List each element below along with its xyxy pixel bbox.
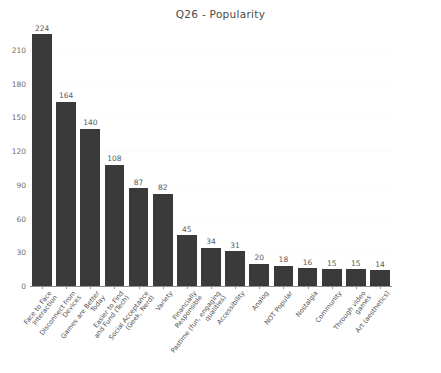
bar-group[interactable]: 15 bbox=[322, 22, 342, 286]
bar-value-label: 224 bbox=[35, 25, 49, 33]
y-axis-tick-label: 30 bbox=[16, 248, 26, 257]
bar[interactable] bbox=[56, 102, 76, 287]
bar[interactable] bbox=[105, 165, 125, 287]
bar-group[interactable]: 34 bbox=[201, 22, 221, 286]
x-axis-tick bbox=[235, 286, 236, 289]
bar[interactable] bbox=[298, 268, 318, 286]
bar[interactable] bbox=[80, 129, 100, 287]
x-axis-category-label: Variety bbox=[154, 290, 174, 312]
x-axis-category-label: Nostalgia bbox=[294, 290, 318, 319]
bar[interactable] bbox=[274, 266, 294, 286]
bar-value-label: 16 bbox=[303, 259, 313, 267]
bar-group[interactable]: 108 bbox=[105, 22, 125, 286]
x-axis-tick bbox=[283, 286, 284, 289]
bar-value-label: 82 bbox=[158, 184, 168, 192]
bar-value-label: 15 bbox=[351, 260, 361, 268]
x-axis-tick bbox=[356, 286, 357, 289]
y-axis-tick-label: 120 bbox=[12, 147, 26, 156]
bar-group[interactable]: 164 bbox=[56, 22, 76, 286]
bar-group[interactable]: 14 bbox=[370, 22, 390, 286]
chart-title: Q26 - Popularity bbox=[0, 8, 441, 20]
x-axis-category-label: Analog bbox=[251, 290, 270, 312]
bar-value-label: 18 bbox=[279, 256, 289, 264]
bar-group[interactable]: 18 bbox=[274, 22, 294, 286]
bar-value-label: 20 bbox=[254, 254, 264, 262]
x-axis-tick bbox=[259, 286, 260, 289]
bar-group[interactable]: 140 bbox=[80, 22, 100, 286]
y-axis-tick-label: 90 bbox=[16, 180, 26, 189]
bar-group[interactable]: 31 bbox=[225, 22, 245, 286]
bar-value-label: 34 bbox=[206, 238, 216, 246]
bar[interactable] bbox=[370, 270, 390, 286]
x-axis-tick bbox=[66, 286, 67, 289]
x-axis-tick bbox=[380, 286, 381, 289]
bar-group[interactable]: 87 bbox=[129, 22, 149, 286]
bar[interactable] bbox=[322, 269, 342, 286]
x-axis-tick bbox=[332, 286, 333, 289]
bar-value-label: 15 bbox=[327, 260, 337, 268]
y-axis-tick-label: 210 bbox=[12, 45, 26, 54]
x-axis-tick bbox=[308, 286, 309, 289]
bar-value-label: 87 bbox=[134, 179, 144, 187]
bar-group[interactable]: 45 bbox=[177, 22, 197, 286]
y-axis-tick-label: 60 bbox=[16, 214, 26, 223]
plot-area: 2241641401088782453431201816151514 bbox=[30, 22, 392, 286]
bar-group[interactable]: 15 bbox=[346, 22, 366, 286]
bar[interactable] bbox=[201, 248, 221, 286]
y-axis: 0306090120150180210 bbox=[0, 22, 30, 286]
bar-value-label: 31 bbox=[230, 242, 240, 250]
bar-chart: Q26 - Popularity 0306090120150180210 224… bbox=[0, 0, 441, 373]
bar[interactable] bbox=[177, 235, 197, 286]
bar-value-label: 140 bbox=[83, 119, 97, 127]
y-axis-tick-label: 180 bbox=[12, 79, 26, 88]
bar-group[interactable]: 20 bbox=[249, 22, 269, 286]
x-axis-tick bbox=[163, 286, 164, 289]
bar[interactable] bbox=[153, 194, 173, 286]
bar-group[interactable]: 82 bbox=[153, 22, 173, 286]
bar[interactable] bbox=[32, 34, 52, 286]
bar-value-label: 14 bbox=[375, 261, 385, 269]
x-axis-tick bbox=[187, 286, 188, 289]
bar[interactable] bbox=[346, 269, 366, 286]
x-axis-tick bbox=[90, 286, 91, 289]
bar-value-label: 108 bbox=[107, 155, 121, 163]
x-axis-labels: Face to FaceInteractionDisconnect fromDe… bbox=[0, 288, 441, 373]
x-axis-tick bbox=[42, 286, 43, 289]
y-axis-tick-label: 150 bbox=[12, 113, 26, 122]
bar[interactable] bbox=[129, 188, 149, 286]
x-axis-tick bbox=[211, 286, 212, 289]
x-axis-tick bbox=[114, 286, 115, 289]
bar[interactable] bbox=[249, 264, 269, 287]
bar-value-label: 164 bbox=[59, 92, 73, 100]
bar-group[interactable]: 16 bbox=[298, 22, 318, 286]
bar-value-label: 45 bbox=[182, 226, 192, 234]
bar-group[interactable]: 224 bbox=[32, 22, 52, 286]
x-axis-tick bbox=[139, 286, 140, 289]
bar[interactable] bbox=[225, 251, 245, 286]
